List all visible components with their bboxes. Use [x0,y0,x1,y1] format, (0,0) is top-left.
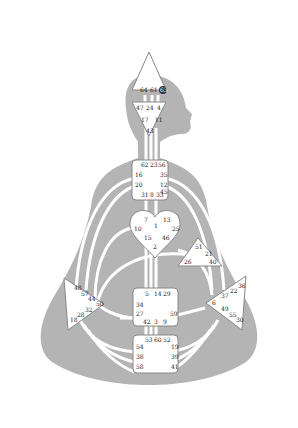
head-center: 64 61 63 [132,52,168,94]
svg-text:1: 1 [154,222,158,229]
svg-text:37: 37 [221,292,229,299]
svg-text:41: 41 [171,363,179,370]
svg-text:13: 13 [163,216,171,223]
svg-text:38: 38 [136,353,144,360]
svg-text:33: 33 [156,191,164,198]
svg-text:62: 62 [141,161,149,168]
svg-text:12: 12 [160,181,168,188]
svg-text:56: 56 [158,161,166,168]
svg-text:32: 32 [85,306,93,313]
svg-text:54: 54 [136,343,144,350]
svg-text:18: 18 [70,316,78,323]
svg-text:29: 29 [163,290,171,297]
throat-center: 62 23 56 16 35 20 12 45 31 8 33 [132,160,168,200]
svg-text:64: 64 [140,86,148,93]
svg-text:6: 6 [212,299,216,306]
svg-text:26: 26 [184,258,192,265]
svg-text:30: 30 [236,316,244,323]
svg-text:5: 5 [145,290,149,297]
svg-text:9: 9 [163,318,167,325]
svg-text:3: 3 [154,318,158,325]
svg-text:39: 39 [171,353,179,360]
svg-text:60: 60 [154,336,162,343]
svg-text:52: 52 [163,336,171,343]
svg-text:61: 61 [150,86,158,93]
svg-text:21: 21 [205,250,213,257]
svg-text:10: 10 [134,225,142,232]
svg-text:7: 7 [144,216,148,223]
svg-text:22: 22 [230,287,238,294]
svg-text:49: 49 [221,305,229,312]
svg-text:15: 15 [144,234,152,241]
svg-text:42: 42 [143,318,151,325]
svg-text:51: 51 [195,243,203,250]
svg-text:34: 34 [136,301,144,308]
svg-text:16: 16 [135,171,143,178]
svg-text:46: 46 [162,234,170,241]
svg-text:17: 17 [141,116,149,123]
svg-text:43: 43 [146,127,154,134]
root-center: 53 60 52 54 19 38 39 58 41 [133,335,179,373]
svg-text:53: 53 [145,336,153,343]
svg-text:11: 11 [155,116,163,123]
sacral-center: 5 14 29 34 27 59 42 3 9 [133,288,178,326]
svg-text:44: 44 [88,295,96,302]
svg-text:14: 14 [154,290,162,297]
svg-text:40: 40 [209,258,217,265]
svg-text:63: 63 [160,86,168,93]
svg-text:47: 47 [136,104,144,111]
svg-text:28: 28 [77,311,85,318]
svg-text:31: 31 [141,191,149,198]
svg-text:8: 8 [150,191,154,198]
svg-text:19: 19 [171,343,179,350]
svg-text:23: 23 [150,161,158,168]
bodygraph: 64 61 63 47 24 4 17 11 43 62 23 56 16 35… [0,0,298,428]
svg-text:4: 4 [157,104,161,111]
svg-text:24: 24 [146,104,154,111]
svg-text:25: 25 [172,225,180,232]
svg-text:2: 2 [153,243,157,250]
svg-text:35: 35 [160,171,168,178]
svg-text:58: 58 [136,363,144,370]
svg-text:59: 59 [170,310,178,317]
svg-text:50: 50 [96,300,104,307]
svg-text:20: 20 [135,181,143,188]
svg-text:27: 27 [136,310,144,317]
svg-text:36: 36 [238,282,246,289]
